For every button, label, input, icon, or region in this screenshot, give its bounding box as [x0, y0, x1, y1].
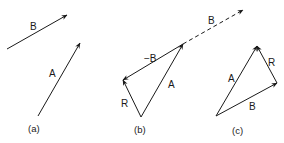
label-a: A	[49, 68, 56, 79]
panel-b: −B A R B (b)	[121, 10, 243, 135]
label-minus-b: −B	[144, 53, 157, 64]
vector-a-arrow	[38, 43, 80, 116]
vector-diagram: B A (a) −B A R B (b) A R B (c)	[0, 0, 284, 143]
caption-c: (c)	[232, 125, 243, 136]
label-b: B	[249, 101, 256, 112]
caption-a: (a)	[28, 123, 40, 134]
label-r: R	[268, 57, 275, 68]
label-b-dashed: B	[208, 15, 215, 26]
vector-b-arrow	[7, 15, 67, 49]
label-a: A	[168, 79, 175, 90]
label-b: B	[30, 21, 37, 32]
panel-c: A R B (c)	[216, 46, 277, 136]
label-a: A	[228, 73, 235, 84]
caption-b: (b)	[134, 124, 146, 135]
label-r: R	[121, 98, 128, 109]
panel-a: B A (a)	[7, 15, 80, 134]
